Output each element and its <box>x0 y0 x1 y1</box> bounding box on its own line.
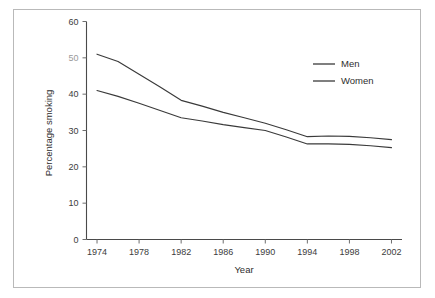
x-tick-label: 1994 <box>297 247 317 257</box>
y-axis-ticks: 0102030405060 <box>68 17 86 245</box>
figure-container: 0102030405060 19741978198219861990199419… <box>0 0 435 298</box>
series-line-women <box>97 91 391 148</box>
chart-legend: MenWomen <box>313 58 374 86</box>
y-tick-label: 50 <box>68 53 78 63</box>
line-chart: 0102030405060 19741978198219861990199419… <box>0 0 435 298</box>
x-tick-label: 1974 <box>87 247 107 257</box>
x-tick-label: 2002 <box>381 247 401 257</box>
x-axis-ticks: 19741978198219861990199419982002 <box>87 240 401 257</box>
legend-label-women: Women <box>341 75 374 86</box>
y-tick-label: 30 <box>68 126 78 136</box>
x-tick-label: 1982 <box>171 247 191 257</box>
x-axis-title: Year <box>234 264 253 275</box>
x-tick-label: 1978 <box>129 247 149 257</box>
x-tick-label: 1998 <box>339 247 359 257</box>
legend-label-men: Men <box>341 58 359 69</box>
y-tick-label: 60 <box>68 17 78 27</box>
y-axis-title: Percentage smoking <box>43 90 54 177</box>
y-tick-label: 20 <box>68 162 78 172</box>
y-tick-label: 10 <box>68 198 78 208</box>
y-tick-label: 0 <box>73 235 78 245</box>
y-tick-label: 40 <box>68 89 78 99</box>
x-tick-label: 1990 <box>255 247 275 257</box>
x-tick-label: 1986 <box>213 247 233 257</box>
axis-group <box>87 22 403 240</box>
